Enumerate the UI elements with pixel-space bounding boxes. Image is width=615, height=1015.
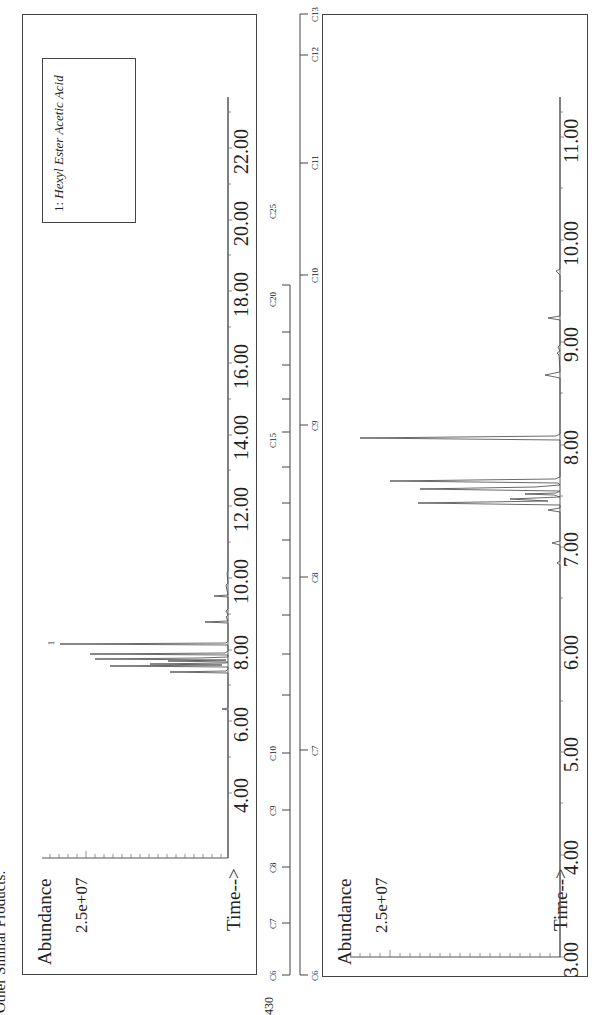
x-tick-label: 6.00 <box>560 635 583 670</box>
x-tick-label: 5.00 <box>560 737 583 772</box>
rotated-page: Other Similar Products: 1: Hexyl Ester A… <box>0 0 615 1015</box>
x-tick-label: 11.00 <box>560 119 583 163</box>
page-number: 430 <box>262 997 277 1015</box>
x-tick-label: 9.00 <box>560 327 583 362</box>
bottom-chromatogram-plot <box>0 0 615 1015</box>
x-tick-label: 4.00 <box>560 840 583 875</box>
x-tick-label: 7.00 <box>560 532 583 567</box>
x-tick-label: 3.00 <box>560 942 583 977</box>
x-tick-label: 8.00 <box>560 430 583 465</box>
x-tick-label: 10.00 <box>560 221 583 266</box>
bottom-x-tick-labels: 3.00 4.00 5.00 6.00 7.00 8.00 9.00 10.00… <box>560 0 590 1015</box>
